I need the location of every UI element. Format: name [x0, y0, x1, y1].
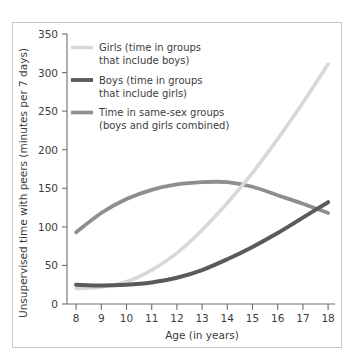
- y-tick-label-100: 100: [38, 221, 58, 233]
- y-tick-label-350: 350: [38, 28, 58, 40]
- x-tick-label-11: 11: [145, 312, 158, 324]
- legend-label-boys-line1: Boys (time in groups: [99, 75, 203, 86]
- x-tick-label-17: 17: [296, 312, 309, 324]
- series-line-boys: [76, 202, 328, 285]
- y-tick-label-300: 300: [38, 67, 58, 79]
- y-tick-label-200: 200: [38, 144, 58, 156]
- x-tick-label-9: 9: [98, 312, 105, 324]
- legend-label-same-sex-line1: Time in same-sex groups: [98, 107, 224, 118]
- x-tick-label-12: 12: [170, 312, 183, 324]
- x-tick-label-18: 18: [321, 312, 334, 324]
- chart-figure: Unsupervised time with peers (minutes pe…: [12, 22, 342, 348]
- x-axis-title: Age (in years): [165, 329, 239, 341]
- x-tick-label-8: 8: [73, 312, 80, 324]
- y-tick-label-0: 0: [51, 298, 58, 310]
- x-tick-label-14: 14: [221, 312, 235, 324]
- y-tick-label-150: 150: [38, 182, 58, 194]
- legend-label-boys-line2: that include girls): [99, 88, 187, 99]
- y-tick-label-50: 50: [45, 259, 58, 271]
- x-tick-label-16: 16: [271, 312, 285, 324]
- legend-label-same-sex-line2: (boys and girls combined): [99, 120, 229, 131]
- y-tick-label-250: 250: [38, 105, 58, 117]
- legend-label-girls-line2: that include boys): [99, 55, 189, 66]
- y-axis-ticks: 0 50 100 150 200 250 300 350: [38, 28, 67, 310]
- x-tick-label-15: 15: [246, 312, 259, 324]
- x-axis-ticks: 8 9 10 11 12 13 14 15 16 17 18: [73, 304, 335, 324]
- y-axis-title: Unsupervised time with peers (minutes pe…: [17, 48, 29, 318]
- x-tick-label-10: 10: [120, 312, 133, 324]
- chart-legend: Girls (time in groups that include boys)…: [71, 42, 229, 131]
- legend-label-girls-line1: Girls (time in groups: [99, 42, 201, 53]
- line-chart: Unsupervised time with peers (minutes pe…: [13, 23, 341, 347]
- x-tick-label-13: 13: [195, 312, 208, 324]
